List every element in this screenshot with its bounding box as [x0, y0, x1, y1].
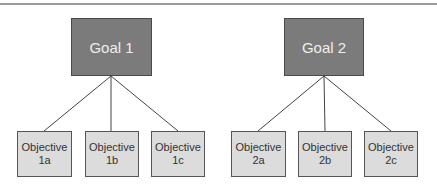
- objective-2b-line2: 2b: [319, 154, 331, 167]
- objective-1c-line2: 1c: [172, 154, 184, 167]
- objective-2c-line2: 2c: [385, 154, 397, 167]
- objective-1a-box: Objective 1a: [17, 131, 72, 177]
- objective-1c-line1: Objective: [155, 141, 201, 154]
- objective-2c-line1: Objective: [368, 141, 414, 154]
- goal-1-box: Goal 1: [71, 18, 152, 76]
- goal-2-label: Goal 2: [302, 39, 346, 56]
- objective-2a-line2: 2a: [252, 154, 264, 167]
- goal-2-box: Goal 2: [284, 18, 364, 76]
- objective-2c-box: Objective 2c: [364, 131, 418, 177]
- objective-1b-box: Objective 1b: [85, 131, 139, 177]
- connector-goal2-obj2c: [324, 76, 391, 131]
- goal-1-label: Goal 1: [89, 39, 133, 56]
- objective-2a-line1: Objective: [236, 141, 282, 154]
- connector-goal2-obj2a: [258, 76, 324, 131]
- objective-1b-line2: 1b: [106, 154, 118, 167]
- connector-goal1-obj1c: [111, 76, 178, 131]
- objective-1a-line2: 1a: [38, 154, 50, 167]
- objective-2b-line1: Objective: [302, 141, 348, 154]
- objective-1b-line1: Objective: [89, 141, 135, 154]
- objective-1c-box: Objective 1c: [151, 131, 205, 177]
- objective-2b-box: Objective 2b: [298, 131, 352, 177]
- connector-goal2-obj2b: [324, 76, 325, 131]
- objective-1a-line1: Objective: [22, 141, 68, 154]
- objective-2a-box: Objective 2a: [231, 131, 286, 177]
- connector-goal1-obj1a: [44, 76, 111, 131]
